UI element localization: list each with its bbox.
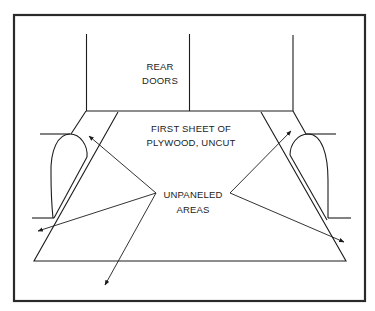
- label-unpaneled: UNPANELED: [163, 189, 222, 200]
- van-floor-diagram: REAR DOORS FIRST SHEET OF PLYWOOD, UNCUT…: [0, 0, 375, 311]
- arrow-upper-right: [230, 131, 291, 193]
- left-side-wall-line: [54, 157, 87, 218]
- right-side-wall-line: [290, 155, 327, 220]
- label-first-sheet: FIRST SHEET OF: [151, 123, 231, 134]
- right-body-slope: [293, 111, 306, 134]
- arrow-lower-right: [230, 193, 344, 242]
- right-wheel-well: [290, 134, 328, 218]
- label-plywood-uncut: PLYWOOD, UNCUT: [146, 137, 235, 148]
- left-body-slope: [71, 111, 86, 134]
- floor-outline: [34, 112, 346, 261]
- label-areas: AREAS: [176, 204, 209, 215]
- label-doors: DOORS: [142, 75, 178, 86]
- label-rear: REAR: [146, 61, 173, 72]
